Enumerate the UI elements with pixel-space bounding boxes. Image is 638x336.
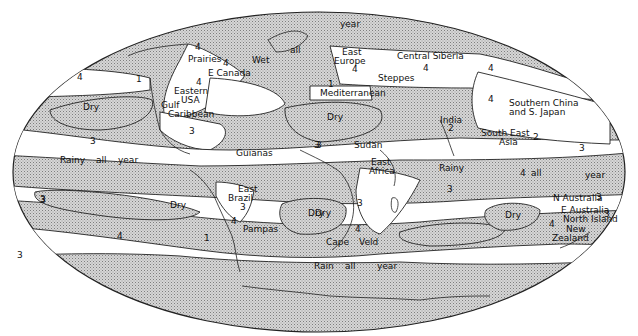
map-label-africa: Africa xyxy=(369,167,395,176)
map-label-usa: USA xyxy=(181,96,200,105)
map-label-central-siberia: Central Siberia xyxy=(397,52,464,61)
map-label-caribbean-num: 3 xyxy=(189,127,195,136)
map-label-brazil-num: 3 xyxy=(240,203,246,212)
map-label-veld: Veld xyxy=(359,238,378,247)
world-climate-map xyxy=(0,0,638,336)
map-label-dry-sahara: Dry xyxy=(327,113,343,122)
map-label-sudan-num: 3 xyxy=(314,141,320,150)
map-label-num-4-e: 4 xyxy=(520,169,526,178)
map-label-sa-atl-3: 3 xyxy=(40,196,46,205)
map-label-prairies: Prairies xyxy=(188,55,221,64)
map-label-pac-3: 3 xyxy=(579,144,585,153)
map-label-year-north: year xyxy=(340,20,360,29)
map-label-cape: Cape xyxy=(326,238,349,247)
map-label-europe-num: 4 xyxy=(352,65,358,74)
map-label-wet: Wet xyxy=(252,56,269,65)
map-label-india-num: 2 xyxy=(448,124,454,133)
map-label-s-africa-num: 3 xyxy=(357,199,363,208)
map-label-pacific-3: 3 xyxy=(90,137,96,146)
map-label-year-s: year xyxy=(377,262,397,271)
map-label-dry-s-atl: Dry xyxy=(308,209,324,218)
map-label-all-w: all xyxy=(96,156,107,165)
map-label-guianas: Guianas xyxy=(236,149,273,158)
map-label-europe: Europe xyxy=(334,57,366,66)
map-label-rainy-io: Rainy xyxy=(439,164,464,173)
map-label-pampas-num: 4 xyxy=(231,217,237,226)
map-label-pac-2: 2 xyxy=(533,133,539,142)
map-label-all-e: all xyxy=(531,169,542,178)
map-label-mediterranean: Mediterranean xyxy=(320,89,386,98)
map-label-pampas: Pampas xyxy=(243,225,278,234)
map-label-n-australia: N Australia xyxy=(553,194,602,203)
map-label-dry-s-america: Dry xyxy=(170,201,186,210)
map-label-siberia-num: 4 xyxy=(423,64,429,73)
map-label-atl-sw-3: 3 xyxy=(17,251,23,260)
map-label-zealand: Zealand xyxy=(552,234,589,243)
map-label-rain: Rain xyxy=(314,262,334,271)
map-label-e-asia-4a: 4 xyxy=(488,64,494,73)
map-label-e-asia-4b: 4 xyxy=(488,95,494,104)
map-label-nz-num: 4 xyxy=(549,220,555,229)
map-label-e-canada-num: 4 xyxy=(223,59,229,68)
map-label-dry-australia: Dry xyxy=(505,211,521,220)
map-label-pacific-n-1: 1 xyxy=(136,75,142,84)
map-label-dry-n-pacific: Dry xyxy=(83,103,99,112)
map-label-steppes: Steppes xyxy=(378,74,414,83)
map-label-caribbean: Caribbean xyxy=(168,110,214,119)
map-label-sp-1: 1 xyxy=(204,234,210,243)
map-label-rainy-w: Rainy xyxy=(60,156,85,165)
map-label-sudan: Sudan xyxy=(354,141,382,150)
map-label-far-e-3: 3 xyxy=(604,210,610,219)
map-label-io-3: 3 xyxy=(447,185,453,194)
map-label-all-s: all xyxy=(345,262,356,271)
map-label-cape-num: 4 xyxy=(355,225,361,234)
map-label-asia: Asia xyxy=(499,138,518,147)
map-label-n-australia-num: 3 xyxy=(596,193,602,202)
map-label-prairies-num: 4 xyxy=(195,43,201,52)
map-label-e-canada: E Canada xyxy=(208,69,251,78)
map-label-all-north: all xyxy=(290,46,301,55)
map-label-year-w: year xyxy=(118,156,138,165)
map-label-year-e: year xyxy=(585,171,605,180)
map-label-sp-4: 4 xyxy=(117,232,123,241)
map-label-s-japan: and S. Japan xyxy=(509,108,565,117)
map-label-pacific-n-4: 4 xyxy=(77,73,83,82)
